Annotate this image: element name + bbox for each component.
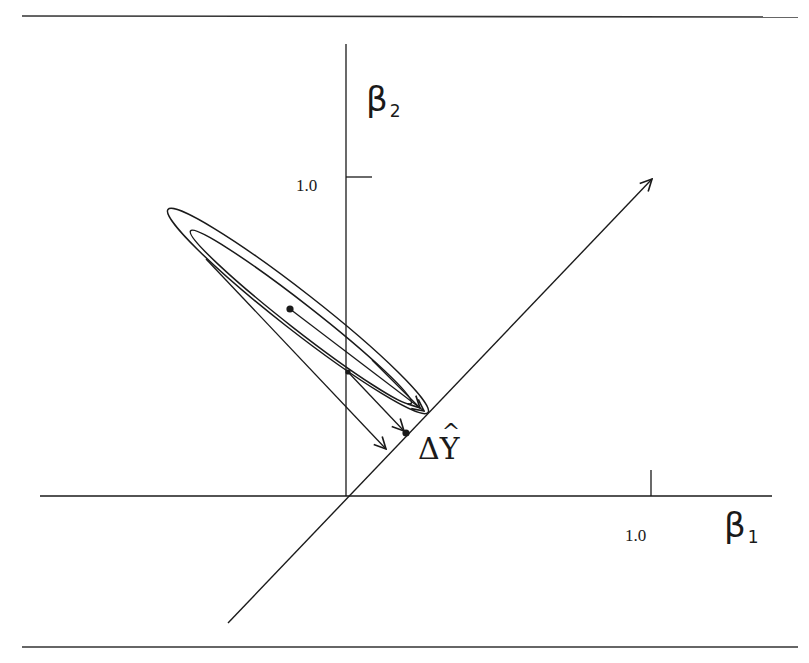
beta2-symbol: β	[366, 79, 388, 119]
beta2-axis-label: β2	[366, 82, 401, 120]
outer-confidence-ellipse	[156, 194, 439, 427]
hat-accent: ^	[442, 421, 460, 443]
beta1-tick-label: 1.0	[625, 527, 646, 544]
regression-diagram	[0, 0, 809, 663]
beta1-axis-label: β1	[724, 508, 759, 546]
intersection-point	[345, 369, 350, 374]
beta1-symbol: β	[724, 505, 746, 545]
yhat-symbol: ^Y	[440, 434, 460, 464]
top-rule	[22, 16, 798, 17]
projection-arrow-outer-tangent	[372, 360, 420, 408]
delta-yhat-label: Δ^Y	[418, 434, 459, 464]
projection-arrow-from-ellipse-edge	[206, 259, 386, 449]
projection-direction-line	[228, 179, 652, 623]
beta2-subscript: 2	[390, 101, 401, 121]
beta1-subscript: 1	[748, 527, 759, 547]
beta2-tick-label: 1.0	[296, 177, 317, 194]
delta-symbol: Δ	[418, 431, 440, 466]
projected-point	[402, 429, 409, 436]
projection-arrow-from-estimate	[290, 309, 424, 411]
